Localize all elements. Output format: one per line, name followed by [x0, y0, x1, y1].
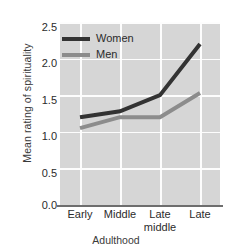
y-tick-label: 1.5: [31, 95, 57, 106]
chart-legend: Women Men: [62, 31, 172, 63]
legend-swatch-women: [62, 37, 90, 41]
legend-label-men: Men: [96, 47, 117, 62]
legend-swatch-men: [62, 53, 90, 57]
y-tick-label: 0.5: [31, 168, 57, 179]
chart-figure: Mean rating of spirituality 2.5 2.0 1.5 …: [0, 0, 232, 252]
y-tick-label: 2.0: [31, 58, 57, 69]
legend-item-men: Men: [62, 47, 172, 63]
y-tick-label: 2.5: [31, 22, 57, 33]
series-line-men: [80, 93, 200, 128]
legend-label-women: Women: [96, 31, 134, 46]
x-axis-spine: [57, 205, 223, 207]
y-tick-label: 1.0: [31, 131, 57, 142]
x-tick-label-late: Late: [165, 208, 232, 221]
x-tick-line2: middle: [125, 221, 195, 234]
x-axis-title: Adulthood: [0, 234, 232, 246]
legend-item-women: Women: [62, 31, 172, 47]
x-tick-line1: Late: [189, 208, 210, 220]
